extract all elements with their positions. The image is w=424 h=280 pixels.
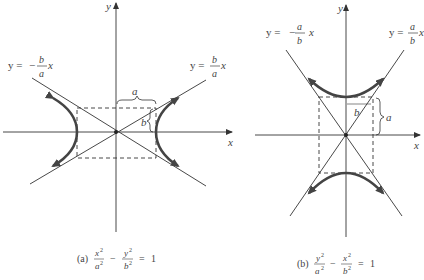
hyperbola-figure: y x a b y = − b a x y = b a x (a) x 2 a … [0,0,424,280]
panel-a [3,3,232,232]
asymptote-pos-label-a: y = b a x [190,54,226,79]
minus: − [110,253,116,264]
x-axis-label-a: x [227,136,233,148]
term1-num: y [315,253,320,263]
numerator: b [39,54,44,65]
variable: x [47,59,53,71]
caption-prefix: (a) [77,253,88,265]
brace-b-label-a: b [141,116,147,128]
numerator: b [212,54,217,65]
lhs: y = [8,59,22,71]
panel-b [255,5,420,237]
rhs: 1 [370,258,375,269]
exp: 2 [321,265,324,271]
lhs: y = [266,26,280,38]
hyperbola-left-branch-lower [53,132,77,166]
denominator: a [39,68,44,79]
caption-prefix: (b) [297,258,309,270]
variable: x [418,26,424,38]
origin-dot-b [344,133,348,137]
equals: = [139,253,145,264]
equals: = [358,258,364,269]
caption-a: (a) x 2 a 2 − y 2 b 2 = 1 [77,247,156,271]
numerator: a [410,21,415,32]
origin-dot-a [114,130,118,134]
hyperbola-left-branch [53,98,77,132]
exp: 2 [129,260,132,266]
exp: 2 [100,260,103,266]
brace-a-label-a: a [132,85,138,97]
brace-a-vertical-b [376,98,384,135]
term1-num: x [94,248,99,258]
x-axis-label-b: x [413,139,419,151]
exp: 2 [321,252,324,258]
exp: 2 [348,252,351,258]
hyperbola-lower-branch-right [346,173,383,193]
exp: 2 [100,247,103,253]
brace-b-vertical [147,109,153,132]
hyperbola-right-branch-lower [156,132,178,166]
y-axis-label-a: y [105,0,111,12]
hyperbola-upper-branch [309,79,346,97]
numerator: a [297,21,302,32]
minus: − [330,258,336,269]
asymptote-neg-label-a: y = − b a x [8,54,53,79]
exp: 2 [129,247,132,253]
denominator: b [410,35,415,46]
asymptote-pos-b [290,50,404,216]
term2-num: x [342,253,347,263]
term2-num: y [123,248,128,258]
term1-den: a [315,266,320,276]
variable: x [308,26,314,38]
denominator: b [297,35,302,46]
lhs: y = [190,59,204,71]
caption-b: (b) y 2 a 2 − x 2 b 2 = 1 [297,252,375,276]
brace-b-label-b: b [354,106,360,118]
asymptote-pos-label-b: y = a b x [389,21,424,46]
rhs: 1 [151,253,156,264]
sign: − [29,59,35,71]
y-axis-label-b: y [337,2,343,14]
sign: − [289,26,295,38]
exp: 2 [348,265,351,271]
denominator: a [212,68,217,79]
brace-a-label-b: a [386,111,392,123]
asymptote-neg-b [286,50,402,216]
asymptote-neg-label-b: y = − a b x [266,21,314,46]
lhs: y = [389,26,403,38]
variable: x [220,59,226,71]
hyperbola-lower-branch [309,173,346,193]
brace-a-horizontal [117,96,156,104]
